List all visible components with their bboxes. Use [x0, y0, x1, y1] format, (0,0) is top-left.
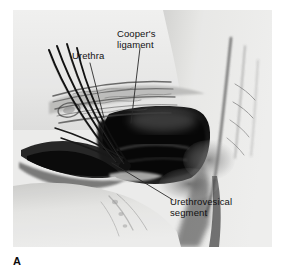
annotation-label-coopers-ligament: Cooper's ligament: [117, 28, 156, 50]
figure-letter: A: [13, 255, 21, 267]
figure-panel: Urethra Cooper's ligament Urethrovesical…: [0, 0, 283, 274]
annotation-label-urethra: Urethra: [72, 50, 104, 61]
annotation-label-urethrovesical-segment: Urethrovesical segment: [170, 196, 232, 218]
